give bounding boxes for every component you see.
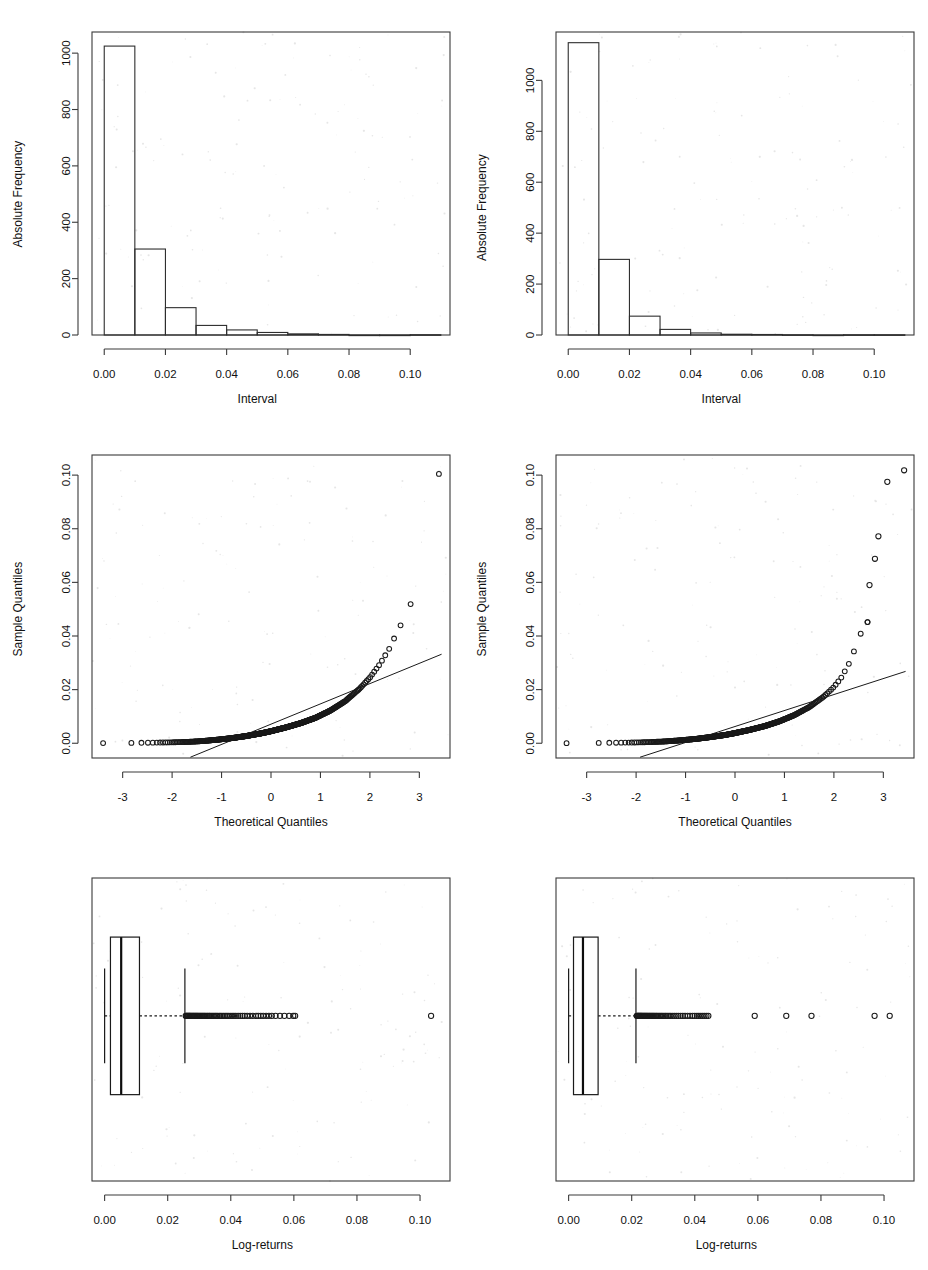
histogram-bar	[135, 249, 166, 335]
histogram-bar	[165, 308, 196, 335]
qq-point	[437, 472, 442, 477]
x-tick-label: 0.04	[215, 368, 238, 380]
x-axis-label: Interval	[238, 392, 277, 406]
y-tick-label: 1000	[60, 40, 72, 66]
x-axis-label: Log-returns	[232, 1238, 293, 1252]
y-tick-label: 0.04	[524, 624, 536, 647]
panel-hist-left: 0.000.020.040.060.080.10Interval02004006…	[0, 2, 464, 425]
x-tick-label: -2	[631, 791, 641, 803]
qq-point	[146, 740, 151, 745]
x-tick-label: 0.10	[873, 1214, 895, 1226]
y-tick-label: 0.08	[60, 518, 72, 540]
histogram-bar	[752, 334, 783, 335]
y-tick-label: 0.00	[60, 732, 72, 754]
paper-speckle	[93, 879, 443, 1182]
x-tick-label: -1	[680, 791, 690, 803]
x-tick-label: 0.06	[741, 368, 763, 380]
histogram-bars	[104, 46, 441, 336]
box-iqr	[110, 937, 139, 1095]
x-tick-label: 0.10	[399, 368, 421, 380]
qq-point	[101, 741, 106, 746]
x-tick-label: 2	[831, 791, 837, 803]
x-tick-label: 0.06	[283, 1214, 305, 1226]
qq-point	[839, 675, 844, 680]
histogram-bar	[691, 333, 722, 335]
histogram-bar	[380, 335, 411, 336]
x-tick-label: 0.00	[557, 368, 579, 380]
x-axis-label: Interval	[702, 392, 741, 406]
x-tick-label: 0.06	[277, 368, 299, 380]
boxplot-outliers	[634, 1013, 892, 1018]
histogram-bar	[660, 329, 691, 335]
outlier-point	[428, 1013, 433, 1018]
qq-point-outlier	[867, 582, 872, 587]
histogram-bar	[318, 334, 349, 335]
x-tick-label: 0.02	[157, 1214, 179, 1226]
y-tick-label: 0.10	[524, 464, 536, 486]
qq-points	[101, 472, 442, 746]
x-axis-label: Theoretical Quantiles	[214, 815, 327, 829]
histogram-bar	[196, 325, 227, 335]
x-tick-label: -2	[167, 791, 177, 803]
plot-hist-left: 0.000.020.040.060.080.10Interval02004006…	[0, 2, 464, 425]
y-tick-label: 0.06	[524, 571, 536, 593]
plot-hist-right: 0.000.020.040.060.080.10Interval02004006…	[464, 2, 928, 425]
figure-canvas: 0.000.020.040.060.080.10Interval02004006…	[0, 0, 928, 1270]
histogram-bar	[599, 259, 630, 335]
qq-point	[842, 669, 847, 674]
boxplot-body	[569, 937, 636, 1095]
qq-point	[129, 741, 134, 746]
histogram-bar	[568, 43, 599, 335]
y-tick-label: 0	[524, 332, 536, 338]
paper-speckle	[97, 31, 447, 333]
y-tick-label: 1000	[524, 68, 536, 94]
panel-hist-right: 0.000.020.040.060.080.10Interval02004006…	[464, 2, 928, 425]
qq-point-outlier	[876, 534, 881, 539]
y-axis-label: Absolute Frequency	[475, 154, 489, 261]
y-tick-label: 200	[60, 269, 72, 288]
y-tick-label: 0.00	[524, 732, 536, 754]
x-tick-label: 0.08	[810, 1214, 832, 1226]
x-tick-label: -3	[582, 791, 592, 803]
x-tick-label: 0.08	[802, 368, 824, 380]
plot-frame	[556, 878, 914, 1181]
qq-extreme-points	[867, 468, 907, 588]
histogram-bar	[874, 335, 905, 336]
y-tick-label: 400	[524, 224, 536, 243]
x-tick-label: 0.04	[679, 368, 702, 380]
qq-point	[139, 740, 144, 745]
outlier-point	[784, 1013, 789, 1018]
y-tick-label: 600	[524, 173, 536, 192]
qq-point	[564, 741, 569, 746]
histogram-bar	[844, 335, 875, 336]
x-tick-label: 0.00	[93, 368, 115, 380]
y-tick-label: 400	[60, 213, 72, 232]
panel-box-right: 0.000.020.040.060.080.10Log-returns	[464, 848, 928, 1270]
y-tick-label: 0.02	[524, 678, 536, 700]
qq-point	[865, 620, 870, 625]
histogram-bar	[349, 335, 380, 336]
x-tick-label: 0	[268, 791, 274, 803]
qq-point	[392, 636, 397, 641]
box-iqr	[574, 937, 599, 1095]
qq-reference-line	[640, 671, 906, 757]
qq-point	[846, 661, 851, 666]
x-tick-label: 0.04	[684, 1214, 707, 1226]
plot-frame	[556, 455, 914, 758]
panel-qq-left: -3-2-10123Theoretical Quantiles0.000.020…	[0, 425, 464, 848]
qq-point	[377, 663, 382, 668]
x-tick-label: 1	[317, 791, 323, 803]
plot-qq-right: -3-2-10123Theoretical Quantiles0.000.020…	[464, 425, 928, 848]
y-axis-label: Sample Quantiles	[11, 562, 25, 657]
histogram-bar	[257, 332, 288, 335]
histogram-bar	[782, 335, 813, 336]
y-tick-label: 0.08	[524, 518, 536, 540]
histogram-bar	[410, 335, 441, 336]
histogram-bars	[568, 43, 905, 336]
qq-point	[614, 740, 619, 745]
outlier-point	[752, 1013, 757, 1018]
x-tick-label: 0.02	[154, 368, 176, 380]
outlier-point	[872, 1013, 877, 1018]
x-axis-label: Log-returns	[696, 1238, 757, 1252]
qq-point-outlier	[902, 468, 907, 473]
